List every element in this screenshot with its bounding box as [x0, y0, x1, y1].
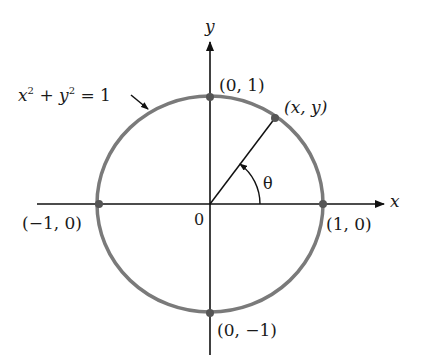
diagram-canvas	[0, 0, 422, 362]
equation-y: y	[59, 85, 69, 105]
equation-equals: =	[80, 85, 94, 105]
point-general-label: (x, y)	[284, 99, 327, 116]
origin-label: 0	[194, 212, 204, 228]
point-bottom-label: (0, −1)	[217, 322, 277, 339]
equation-rhs: 1	[100, 85, 111, 105]
equation-x: x	[18, 85, 28, 105]
equation-x-exponent: 2	[28, 85, 34, 96]
point-top-label: (0, 1)	[219, 77, 265, 94]
equation-label: x2 + y2 = 1	[18, 86, 111, 104]
point-top	[206, 93, 214, 101]
point-left	[95, 200, 103, 208]
y-axis-label: y	[205, 18, 215, 35]
equation-plus: +	[39, 85, 53, 105]
theta-label: θ	[263, 176, 273, 192]
point-right	[319, 200, 327, 208]
point-general	[271, 114, 279, 122]
x-axis-label: x	[390, 193, 400, 210]
equation-y-exponent: 2	[69, 85, 75, 96]
point-right-label: (1, 0)	[326, 216, 372, 233]
point-bottom	[206, 309, 214, 317]
equation-pointer-arrow	[131, 95, 148, 109]
point-left-label: (−1, 0)	[22, 215, 82, 232]
theta-arc	[240, 164, 260, 204]
